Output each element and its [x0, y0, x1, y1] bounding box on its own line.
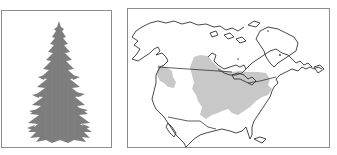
range-map-panel	[127, 8, 330, 148]
us-mexico-border	[168, 117, 216, 129]
species-range-area	[157, 55, 272, 119]
spruce-tree-icon	[2, 11, 111, 147]
north-america-map-icon	[128, 9, 329, 147]
tree-illustration-panel	[1, 10, 112, 148]
